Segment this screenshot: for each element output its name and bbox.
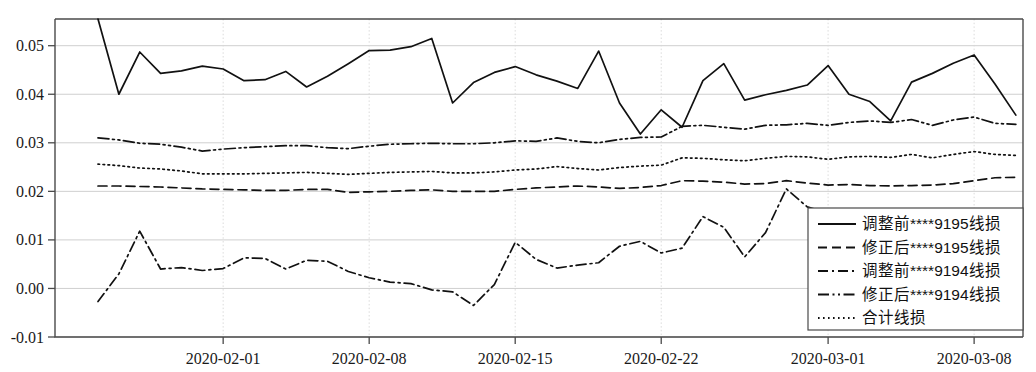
chart-legend[interactable]: 调整前****9195线损修正后****9195线损调整前****9194线损修… [808,208,1023,330]
series-line-0 [98,19,1016,134]
line-chart-figure: -0.010.000.010.020.030.040.05 2020-02-01… [0,0,1036,372]
x-tick-label: 2020-02-08 [332,350,407,367]
series-line-1 [98,177,1016,192]
x-tick-label: 2020-02-22 [624,350,699,367]
y-tick-label: 0.01 [16,231,44,248]
y-axis-ticks: -0.010.000.010.020.030.040.05 [11,37,55,345]
legend-label-1: 修正后****9195线损 [862,239,1001,256]
y-tick-label: 0.04 [16,86,44,103]
legend-label-3: 修正后****9194线损 [862,286,1001,303]
x-tick-label: 2020-02-01 [186,350,261,367]
series-line-3 [98,117,1016,151]
legend-label-0: 调整前****9195线损 [862,215,1001,232]
y-tick-label: 0.00 [16,280,44,297]
series-line-4 [98,152,1016,175]
x-tick-label: 2020-03-08 [937,350,1012,367]
x-tick-label: 2020-02-15 [478,350,553,367]
y-tick-label: 0.03 [16,134,44,151]
y-tick-label: 0.02 [16,183,44,200]
y-tick-label: -0.01 [11,329,44,346]
legend-label-2: 调整前****9194线损 [862,262,1001,279]
y-tick-label: 0.05 [16,37,44,54]
x-tick-label: 2020-03-01 [791,350,866,367]
x-axis-ticks: 2020-02-012020-02-082020-02-152020-02-22… [186,337,1012,367]
legend-label-4: 合计线损 [862,309,926,326]
chart-canvas: -0.010.000.010.020.030.040.05 2020-02-01… [0,0,1036,372]
